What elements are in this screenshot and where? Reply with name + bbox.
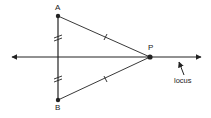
segment-bp: [58, 57, 150, 100]
label-b: B: [55, 104, 60, 112]
segment-ap: [58, 16, 150, 57]
label-p: P: [148, 44, 153, 52]
locus-label: locus: [174, 77, 192, 85]
point-b: [56, 98, 60, 102]
diagram-canvas: A B P locus: [0, 0, 211, 118]
label-a: A: [55, 4, 60, 12]
locus-pointer-arrow: [179, 62, 184, 75]
point-p: [147, 54, 152, 59]
point-a: [56, 14, 60, 18]
geometry-svg: [0, 0, 211, 118]
